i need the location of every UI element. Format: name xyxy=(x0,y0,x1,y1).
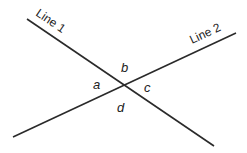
intersecting-lines-diagram: Line 1 Line 2 b a c d xyxy=(0,0,247,153)
line-1-label: Line 1 xyxy=(33,6,68,36)
diagram-svg: Line 1 Line 2 b a c d xyxy=(0,0,247,153)
angle-label-b: b xyxy=(121,60,128,75)
line-2-label: Line 2 xyxy=(187,20,223,47)
angle-label-c: c xyxy=(144,80,151,95)
angle-label-a: a xyxy=(93,77,100,92)
line-1 xyxy=(27,19,214,146)
line-2 xyxy=(13,33,236,137)
angle-label-d: d xyxy=(117,100,125,115)
